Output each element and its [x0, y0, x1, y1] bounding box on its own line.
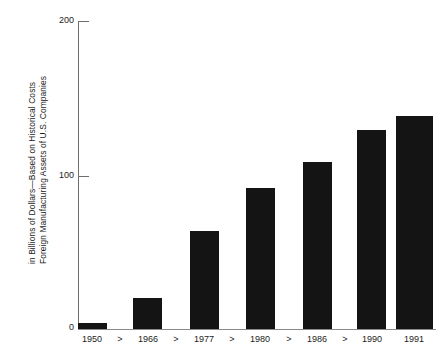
y-tick-label-100-box: 100 — [44, 171, 74, 181]
y-tick-label-200: 200 — [44, 16, 74, 25]
bar-1966 — [133, 298, 162, 329]
bar-1986 — [303, 162, 332, 329]
x-axis-label-1980: 1980 — [240, 334, 280, 345]
x-axis-break-marker-5: > — [337, 334, 353, 345]
y-tick-mark-100 — [78, 176, 89, 177]
bar-1990 — [357, 130, 386, 329]
x-axis-label-1991: 1991 — [394, 334, 434, 345]
y-tick-label-0-box: 0 — [44, 323, 74, 333]
x-axis-label-1990: 1990 — [352, 334, 392, 345]
x-axis-break-marker-3: > — [224, 334, 240, 345]
y-tick-mark-200 — [78, 21, 89, 22]
x-axis-break-marker-2: > — [168, 334, 184, 345]
x-axis-label-1950: 1950 — [72, 334, 112, 345]
x-axis-label-1986: 1986 — [297, 334, 337, 345]
x-axis-break-marker-1: > — [112, 334, 128, 345]
y-tick-label-0: 0 — [44, 323, 74, 332]
y-axis-line — [78, 21, 79, 329]
bar-chart: Foreign Manufacturing Assets of U.S. Com… — [0, 0, 446, 354]
bar-1991 — [396, 116, 433, 329]
x-axis-line — [78, 329, 436, 330]
x-axis-break-marker-4: > — [281, 334, 297, 345]
bar-1977 — [190, 231, 219, 329]
y-axis-title-line-2: in Billions of Dollars—Based on Historic… — [27, 82, 37, 264]
y-axis-title: Foreign Manufacturing Assets of U.S. Com… — [16, 40, 58, 300]
y-tick-label-200-box: 200 — [44, 16, 74, 26]
y-axis-title-line-1: Foreign Manufacturing Assets of U.S. Com… — [38, 76, 48, 264]
x-axis-label-1966: 1966 — [128, 334, 168, 345]
bar-1980 — [246, 188, 275, 329]
y-tick-label-100: 100 — [44, 171, 74, 180]
x-axis-label-1977: 1977 — [184, 334, 224, 345]
